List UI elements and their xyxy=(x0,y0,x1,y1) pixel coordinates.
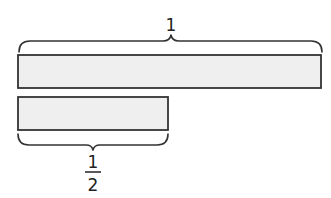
half-fraction-label: 1 2 xyxy=(85,152,101,195)
whole-bar xyxy=(18,55,321,88)
fraction-denominator: 2 xyxy=(88,175,99,195)
fraction-numerator: 1 xyxy=(88,152,99,172)
whole-label: 1 xyxy=(166,15,177,35)
whole-brace-icon xyxy=(19,35,322,52)
half-bar xyxy=(18,97,168,130)
fraction-bar-diagram: 1 1 2 xyxy=(0,0,331,198)
half-brace-icon xyxy=(18,134,168,150)
